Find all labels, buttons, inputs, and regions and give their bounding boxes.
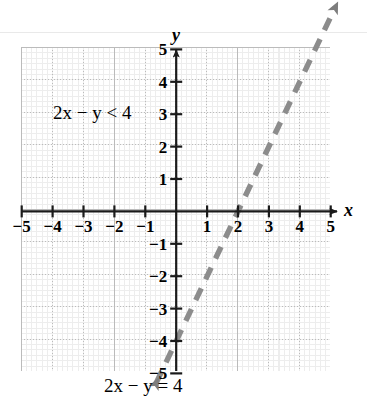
x-tick-label-neg4: −4 xyxy=(41,218,65,235)
x-tick-label-2: 2 xyxy=(228,218,248,235)
x-tick-label-neg5: −5 xyxy=(10,218,34,235)
boundary-equation-annotation: 2x − y = 4 xyxy=(104,376,182,395)
y-tick-label-1: 1 xyxy=(149,171,167,188)
y-tick-label-4: 4 xyxy=(149,74,167,91)
y-axis-label: y xyxy=(172,26,180,44)
x-tick-label-3: 3 xyxy=(259,218,279,235)
y-tick-label-neg3: −3 xyxy=(143,301,167,318)
y-tick-label-3: 3 xyxy=(149,106,167,123)
x-tick-label-neg1: −1 xyxy=(133,218,157,235)
y-tick-label-neg1: −1 xyxy=(143,236,167,253)
inequality-annotation: 2x − y < 4 xyxy=(53,103,131,122)
x-tick-label-neg2: −2 xyxy=(102,218,126,235)
x-tick-label-4: 4 xyxy=(290,218,310,235)
y-tick-label-neg2: −2 xyxy=(143,268,167,285)
x-tick-label-5: 5 xyxy=(321,218,341,235)
y-tick-label-neg4: −4 xyxy=(143,333,167,350)
inequality-graph-figure: −5 −4 −3 −2 −1 1 2 3 4 5 5 4 3 2 1 −1 −2… xyxy=(0,0,367,413)
x-axis-label: x xyxy=(344,201,353,219)
y-tick-label-2: 2 xyxy=(149,139,167,156)
x-tick-label-1: 1 xyxy=(197,218,217,235)
boundary-line-2x-minus-y-equals-4 xyxy=(156,7,335,383)
y-tick-label-5: 5 xyxy=(149,41,167,58)
x-tick-label-neg3: −3 xyxy=(72,218,96,235)
boundary-line-group xyxy=(156,7,335,383)
axes-and-line-overlay xyxy=(0,0,367,413)
